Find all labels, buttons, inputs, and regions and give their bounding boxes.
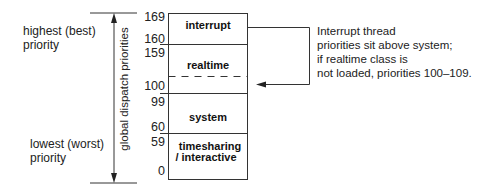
lowest-priority-line1: lowest (worst) [30, 137, 104, 151]
lowest-priority-line2: priority [30, 151, 104, 165]
priority-0: 0 [135, 164, 165, 178]
note-line-2: priorities sit above system; [317, 38, 472, 52]
class-system: system [168, 112, 248, 123]
class-timesharing-line2: / interactive [162, 152, 250, 163]
priority-99: 99 [135, 95, 165, 109]
note-line-3: if realtime class is [317, 52, 472, 66]
lowest-priority-label: lowest (worst) priority [30, 137, 104, 165]
highest-priority-label: highest (best) priority [23, 24, 96, 52]
priority-160: 160 [135, 32, 165, 46]
priority-159: 159 [135, 46, 165, 60]
note-line-1: Interrupt thread [317, 24, 472, 38]
priority-100: 100 [135, 79, 165, 93]
class-timesharing-interactive: timesharing / interactive [170, 141, 250, 163]
class-interrupt: interrupt [168, 20, 248, 31]
axis-label: global dispatch priorities [118, 19, 130, 159]
priority-60: 60 [135, 120, 165, 134]
priority-169: 169 [135, 10, 165, 24]
highest-priority-line1: highest (best) [23, 24, 96, 38]
interrupt-note: Interrupt thread priorities sit above sy… [317, 24, 472, 80]
priority-59: 59 [135, 135, 165, 149]
highest-priority-line2: priority [23, 38, 96, 52]
note-line-4: not loaded, priorities 100–109. [317, 66, 472, 80]
class-realtime: realtime [168, 60, 248, 71]
